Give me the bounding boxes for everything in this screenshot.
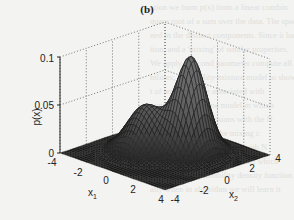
density-surface-mesh xyxy=(60,56,270,190)
x1-tick-0: 0 xyxy=(103,175,109,186)
x1-axis-label: x1 xyxy=(88,187,97,200)
x2-tick-0: 0 xyxy=(224,175,230,186)
z-axis xyxy=(57,57,60,153)
x2-tick-2: 2 xyxy=(249,163,255,174)
z-tick-0-1: 0.1 xyxy=(40,53,54,64)
x1-tick-neg4: -4 xyxy=(48,157,57,168)
x1-tick-neg2: -2 xyxy=(74,167,83,178)
x2-axis-label: x2 xyxy=(229,189,238,202)
z-axis-label: p(x) xyxy=(31,108,42,125)
panel-label: (b) xyxy=(140,3,154,16)
x2-tick-neg2: -2 xyxy=(200,185,209,196)
x2-tick-neg4: -4 xyxy=(171,194,180,205)
x2-tick-4: 4 xyxy=(275,153,281,164)
x1-tick-2: 2 xyxy=(130,184,136,195)
x1-tick-4: 4 xyxy=(158,194,164,205)
surface-plot: (b) 0 0.05 0.1 p(x) -4 -2 0 2 4 x1 -4 -2… xyxy=(0,0,294,220)
